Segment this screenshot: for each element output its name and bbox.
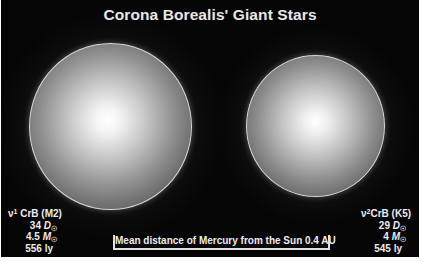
diagram-panel: Corona Borealis' Giant Stars ν1 CrB (M2)…: [1, 0, 419, 257]
star-2-diameter-value: 29: [379, 220, 393, 231]
star-2-name: ν2CrB (K5): [361, 208, 406, 220]
star-2-mass-symbol: M: [392, 231, 400, 242]
star-1-diameter-symbol: D: [44, 220, 51, 231]
star-1-name: ν1 CrB (M2): [8, 208, 57, 220]
star-2-diameter-symbol: D: [393, 220, 400, 231]
sun-symbol-icon: ☉: [51, 236, 57, 243]
star-2-diameter: 29 D☉: [361, 220, 406, 232]
star-1-distance: 556 ly: [7, 243, 57, 255]
diagram-title: Corona Borealis' Giant Stars: [1, 6, 419, 24]
star-1-diameter-value: 34: [30, 220, 44, 231]
star-2-mass: 4 M☉: [361, 231, 406, 243]
scale-bar-label: Mean distance of Mercury from the Sun 0.…: [115, 235, 328, 246]
star-2-nu2-crb: [246, 55, 385, 197]
star-2-label: ν2CrB (K5) 29 D☉ 4 M☉ 545 ly: [361, 208, 406, 254]
star-2-name-suffix: CrB (K5): [370, 208, 411, 219]
star-1-diameter: 34 D☉: [7, 220, 57, 232]
star-2-distance: 545 ly: [361, 243, 406, 255]
scale-bar: Mean distance of Mercury from the Sun 0.…: [113, 235, 330, 250]
star-1-mass-value: 4.5: [26, 231, 43, 242]
star-2-mass-value: 4: [383, 231, 391, 242]
star-1-mass-symbol: M: [43, 231, 51, 242]
star-1-name-suffix: CrB (M2): [17, 208, 61, 219]
star-1-mass: 4.5 M☉: [7, 231, 57, 243]
sun-symbol-icon: ☉: [400, 236, 406, 243]
star-1-label: ν1 CrB (M2) 34 D☉ 4.5 M☉ 556 ly: [7, 208, 57, 254]
star-1-nu1-crb: [29, 43, 192, 210]
